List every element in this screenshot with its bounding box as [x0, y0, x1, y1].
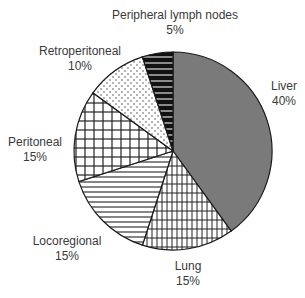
label-peripheral-lymph-nodes: Peripheral lymph nodes 5%	[100, 8, 250, 38]
label-peritoneal: Peritoneal 15%	[4, 135, 66, 165]
label-pct: 15%	[168, 274, 208, 289]
label-pct: 10%	[30, 59, 130, 74]
label-pct: 5%	[100, 23, 250, 38]
label-lung: Lung 15%	[168, 259, 208, 289]
label-name: Peritoneal	[4, 135, 66, 150]
label-name: Liver	[264, 79, 304, 94]
label-liver: Liver 40%	[264, 79, 304, 109]
label-pct: 15%	[4, 150, 66, 165]
label-name: Retroperitoneal	[30, 44, 130, 59]
label-name: Lung	[168, 259, 208, 274]
label-retroperitoneal: Retroperitoneal 10%	[30, 44, 130, 74]
label-name: Locoregional	[26, 234, 108, 249]
pie-slices	[74, 52, 272, 250]
label-locoregional: Locoregional 15%	[26, 234, 108, 264]
label-pct: 15%	[26, 249, 108, 264]
label-name: Peripheral lymph nodes	[100, 8, 250, 23]
label-pct: 40%	[264, 94, 304, 109]
